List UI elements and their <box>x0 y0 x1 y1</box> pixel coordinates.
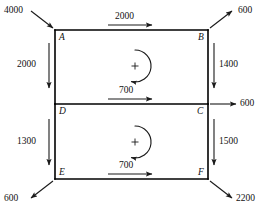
force-label-left-ad-2000: 2000 <box>17 60 36 70</box>
force-label-top-right-600: 600 <box>238 6 252 16</box>
node-label-F: F <box>198 168 204 178</box>
moment-upper-panel-plus-icon <box>132 63 139 70</box>
force-label-top-ab-2000: 2000 <box>115 12 134 22</box>
moment-lower-panel-plus-icon <box>132 139 139 146</box>
force-label-mid-right-600: 600 <box>240 99 254 109</box>
force-label-right-cf-1500: 1500 <box>219 137 238 147</box>
force-bottom-left-600-arrow <box>31 181 53 198</box>
node-label-E: E <box>59 168 65 178</box>
force-label-bottom-ef-700: 700 <box>119 161 133 171</box>
force-label-mid-dc-700: 700 <box>119 86 133 96</box>
moment-upper-panel <box>132 50 152 82</box>
force-label-top-left-4000: 4000 <box>4 6 23 16</box>
force-bottom-right-2200-arrow <box>210 181 232 198</box>
force-top-right-600-arrow <box>210 11 232 28</box>
diagram-canvas <box>0 0 271 210</box>
node-label-C: C <box>197 107 203 117</box>
node-label-B: B <box>198 33 204 43</box>
horizontal-force-arrows <box>108 25 236 174</box>
frame-geometry <box>55 30 208 179</box>
force-top-left-4000-arrow <box>31 11 53 28</box>
free-body-diagram: A B C D E F 4000 2000 600 2000 1400 700 … <box>0 0 271 210</box>
node-label-D: D <box>59 107 66 117</box>
moment-lower-panel <box>132 126 152 158</box>
force-label-left-de-1300: 1300 <box>17 137 36 147</box>
force-label-right-bc-1400: 1400 <box>219 60 238 70</box>
force-label-bottom-left-600: 600 <box>4 194 18 204</box>
node-label-A: A <box>59 33 65 43</box>
force-label-bottom-right-2200: 2200 <box>236 194 255 204</box>
